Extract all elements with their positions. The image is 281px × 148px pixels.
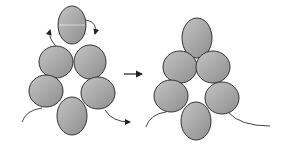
thread-left-tail [22,108,42,122]
after-bead-mid-left [154,80,188,112]
after-step [146,18,270,140]
after-bead-mid-right [205,82,239,114]
thread-loop-right [86,20,96,34]
bead-diagram [0,0,281,148]
before-bead-bottom [57,97,87,135]
thread-right-exit [105,110,130,122]
beads-after [154,18,239,140]
before-step [22,6,130,135]
before-bead-upper-right [74,45,106,79]
thread-right-tail-after [228,112,270,126]
thread-left-tail-after [146,112,166,127]
after-bead-upper-left [163,51,197,83]
thread-loop-left [50,30,56,46]
before-bead-upper-left [39,46,73,78]
before-bead-mid-right [81,77,115,109]
after-bead-bottom [181,102,211,140]
after-bead-upper-right [196,51,230,83]
before-bead-mid-left [29,75,63,107]
